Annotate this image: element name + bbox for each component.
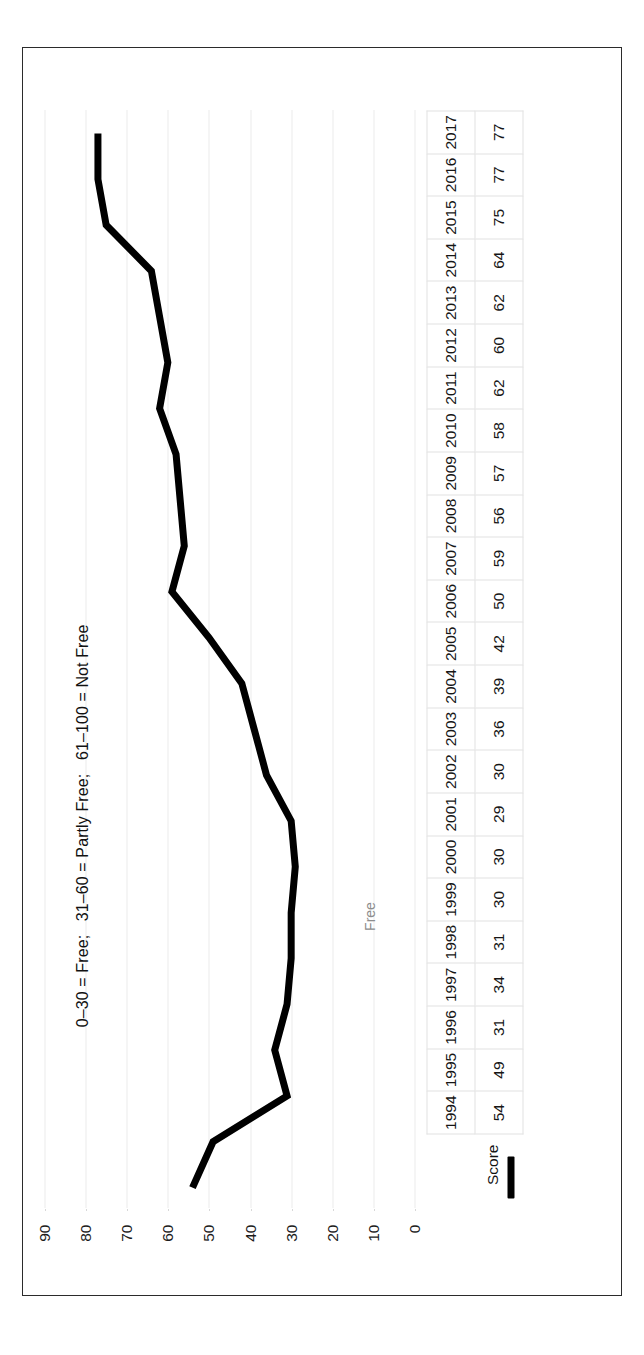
table-cell-year: 2010 [427, 409, 475, 452]
value-axis-tick-label: 90 [35, 1224, 53, 1276]
table-cell-score: 62 [475, 281, 523, 324]
table-cell-score: 58 [475, 409, 523, 452]
legend-line-swatch [507, 1156, 514, 1198]
figure-frame: 9080706050403020100 0–30 = Free; 31–60 =… [22, 47, 622, 1296]
table-cell-score: 29 [475, 793, 523, 836]
value-axis-tick-label: 70 [117, 1224, 135, 1276]
table-cell-year: 1999 [427, 878, 475, 921]
table-cell-score: 30 [475, 835, 523, 878]
table-cell-year: 1995 [427, 1048, 475, 1091]
table-cell-year: 2017 [427, 111, 475, 154]
table-cell-year: 1997 [427, 963, 475, 1006]
table-cell-year: 2003 [427, 707, 475, 750]
table-cell-score: 36 [475, 707, 523, 750]
table-cell-score: 31 [475, 1006, 523, 1049]
table-cell-year: 2016 [427, 153, 475, 196]
table-cell-year: 2015 [427, 196, 475, 239]
value-axis-tick-label: 30 [282, 1224, 300, 1276]
value-axis-tick-label: 0 [405, 1224, 423, 1276]
value-axis-tick-label: 10 [364, 1224, 382, 1276]
table-cell-score: 34 [475, 963, 523, 1006]
table-cell-year: 2009 [427, 452, 475, 495]
table-cell-score: 62 [475, 366, 523, 409]
table-cell-score: 77 [475, 153, 523, 196]
chart-area: 9080706050403020100 0–30 = Free; 31–60 =… [22, 47, 622, 1296]
table-cell-year: 2002 [427, 750, 475, 793]
table-cell-year: 2004 [427, 665, 475, 708]
table-cell-score: 75 [475, 196, 523, 239]
table-cell-score: 54 [475, 1091, 523, 1134]
table-cell-score: 50 [475, 579, 523, 622]
table-row-years: 1994199519961997199819992000200120022003… [427, 111, 475, 1211]
table-cell-year: 2006 [427, 579, 475, 622]
table-cell-year: 2008 [427, 494, 475, 537]
rotated-chart-container: 9080706050403020100 0–30 = Free; 31–60 =… [22, 47, 622, 1296]
table-cell-score: 77 [475, 111, 523, 154]
value-axis-tick-label: 60 [158, 1224, 176, 1276]
value-axis-tick-label: 40 [241, 1224, 259, 1276]
scale-key-annotation: 0–30 = Free; 31–60 = Partly Free; 61–100… [73, 624, 91, 1027]
table-cell-score: 60 [475, 324, 523, 367]
table-cell-score: 64 [475, 238, 523, 281]
table-cell-year: 1994 [427, 1091, 475, 1134]
legend-row-header: Score [475, 1134, 523, 1211]
value-axis-tick-label: 50 [199, 1224, 217, 1276]
table-cell-year: 1996 [427, 1006, 475, 1049]
value-axis-tick-label: 20 [323, 1224, 341, 1276]
table-cell-year: 2012 [427, 324, 475, 367]
table-cell-score: 59 [475, 537, 523, 580]
plot-area: 0–30 = Free; 31–60 = Partly Free; 61–100… [44, 110, 414, 1210]
table-cell-year: 2011 [427, 366, 475, 409]
table-cell-score: 57 [475, 452, 523, 495]
table-cell-score: 39 [475, 665, 523, 708]
free-zone-label: Free [361, 902, 377, 931]
table-cell-year: 2001 [427, 793, 475, 836]
table-cell-year: 2013 [427, 281, 475, 324]
cropped-caption-strip: FIGURE 10.1 Freedom in the World [620, 1185, 644, 1355]
table-cell-year: 2007 [427, 537, 475, 580]
table-cell-score: 30 [475, 878, 523, 921]
table-cell-score: 56 [475, 494, 523, 537]
table-cell-year: 2000 [427, 835, 475, 878]
data-table-wrapper: 1994199519961997199819992000200120022003… [426, 110, 522, 1210]
table-cell-score: 30 [475, 750, 523, 793]
table-corner-cell [427, 1134, 475, 1211]
table-cell-year: 1998 [427, 920, 475, 963]
table-cell-score: 42 [475, 622, 523, 665]
score-line-chart [44, 110, 414, 1210]
value-axis-tick-label: 80 [76, 1224, 94, 1276]
table-cell-score: 49 [475, 1048, 523, 1091]
score-line-path [97, 133, 294, 1187]
table-row-scores: Score 5449313431303029303639425059565758… [475, 111, 523, 1211]
table-cell-year: 2005 [427, 622, 475, 665]
table-cell-year: 2014 [427, 238, 475, 281]
data-table: 1994199519961997199819992000200120022003… [426, 110, 523, 1210]
legend-series-label: Score [483, 1144, 500, 1185]
table-cell-score: 31 [475, 920, 523, 963]
